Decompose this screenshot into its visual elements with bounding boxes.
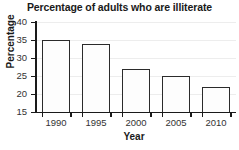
x-tick-label-2005: 2005 [156,117,196,128]
x-tick-label-1995: 1995 [76,117,116,128]
y-tick-20 [31,94,36,95]
x-tick-label-2000: 2000 [116,117,156,128]
y-tick-label-40: 40 [0,16,27,27]
y-tick-30 [31,58,36,59]
chart-title: Percentage of adults who are illiterate [0,1,239,13]
plot-area [36,22,236,112]
bar-2010[interactable] [202,87,231,112]
y-tick-40 [31,22,36,23]
y-tick-25 [31,76,36,77]
y-tick-35 [31,40,36,41]
y-axis-line [35,21,37,113]
x-axis-line [35,112,236,114]
y-tick-label-30: 30 [0,52,27,63]
x-tick-label-1990: 1990 [36,117,76,128]
y-tick-15 [31,112,36,113]
chart-figure: Percentage of adults who are illiterate … [0,0,239,150]
bar-2005[interactable] [162,76,191,112]
x-axis-label: Year [36,131,232,142]
bar-1995[interactable] [82,44,111,112]
bar-2000[interactable] [122,69,151,112]
y-tick-label-15: 15 [0,106,27,117]
bar-1990[interactable] [42,40,71,112]
x-tick-label-2010: 2010 [196,117,236,128]
gridline-40 [36,22,236,23]
y-tick-label-35: 35 [0,34,27,45]
y-tick-label-20: 20 [0,88,27,99]
y-tick-label-25: 25 [0,70,27,81]
